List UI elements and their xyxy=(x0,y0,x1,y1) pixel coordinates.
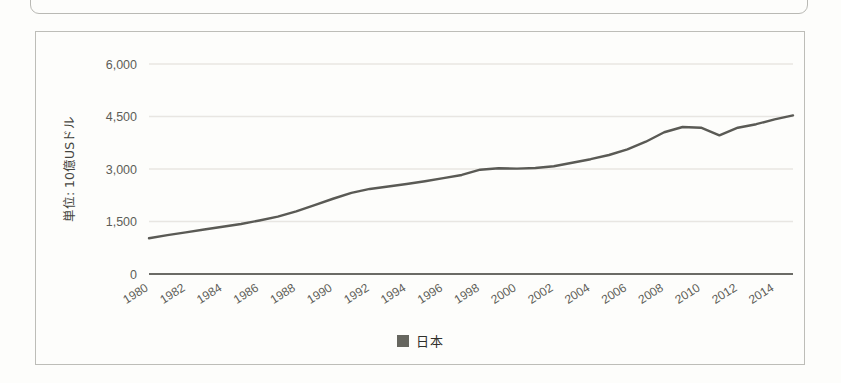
x-tick-label: 1982 xyxy=(157,281,187,307)
x-tick-label: 2014 xyxy=(746,281,776,307)
x-tick-label: 1996 xyxy=(415,281,445,307)
chart-card: 01,5003,0004,5006,000 198019821984198619… xyxy=(35,31,805,365)
y-axis-title: 単位: 10億USドル xyxy=(62,116,77,222)
y-tick-label: 1,500 xyxy=(106,215,137,229)
x-tick-label: 1998 xyxy=(452,281,482,307)
x-tick-label: 2012 xyxy=(709,281,739,307)
legend-swatch-japan xyxy=(397,335,409,347)
y-tick-label: 4,500 xyxy=(106,110,137,124)
x-tick-label: 1986 xyxy=(231,281,261,307)
x-tick-label: 2008 xyxy=(636,281,666,307)
x-tick-label: 2004 xyxy=(562,281,592,307)
series-line-日本 xyxy=(149,115,793,238)
data-series-group xyxy=(149,115,793,238)
x-tick-label: 2000 xyxy=(489,281,519,307)
x-tick-label: 2002 xyxy=(525,281,555,307)
legend-label-japan: 日本 xyxy=(416,331,443,350)
x-tick-label: 1994 xyxy=(378,281,408,307)
chart-plot-area: 01,5003,0004,5006,000 198019821984198619… xyxy=(36,32,804,364)
x-tick-label: 2006 xyxy=(599,281,629,307)
y-tick-label: 3,000 xyxy=(106,163,137,177)
y-tick-label: 6,000 xyxy=(106,58,137,72)
x-tick-label: 2010 xyxy=(673,281,703,307)
x-tick-label: 1984 xyxy=(194,281,224,307)
gridlines-group xyxy=(149,64,793,222)
x-tick-label: 1988 xyxy=(268,281,298,307)
x-tick-label: 1980 xyxy=(121,281,151,307)
chart-legend: 日本 xyxy=(36,331,804,350)
line-chart-svg: 01,5003,0004,5006,000 198019821984198619… xyxy=(36,32,804,364)
y-tick-labels-group: 01,5003,0004,5006,000 xyxy=(106,58,137,282)
y-axis-title-group: 単位: 10億USドル xyxy=(62,116,77,222)
x-tick-labels-group: 1980198219841986198819901992199419961998… xyxy=(121,281,777,307)
upper-panel-edge xyxy=(30,0,808,14)
x-tick-label: 1992 xyxy=(341,281,371,307)
y-tick-label: 0 xyxy=(130,268,137,282)
x-tick-label: 1990 xyxy=(305,281,335,307)
